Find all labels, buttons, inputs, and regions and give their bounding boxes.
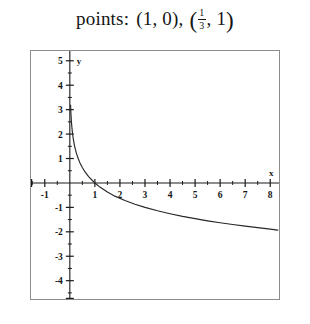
svg-text:1: 1 — [58, 154, 63, 164]
y-axis-label: y — [77, 56, 82, 66]
graph-canvas: -112345678 54321-1-2-3-4 x y — [31, 51, 279, 299]
page-title: points:(1, 0), (13, 1) — [0, 4, 310, 34]
title-label: points: — [76, 8, 129, 29]
svg-text:5: 5 — [193, 190, 198, 200]
plot-frame: -112345678 54321-1-2-3-4 x y — [30, 50, 280, 300]
svg-text:7: 7 — [243, 190, 248, 200]
svg-text:4: 4 — [168, 190, 173, 200]
point-one: (1, 0), — [136, 8, 183, 29]
x-axis-tick-labels: -112345678 — [41, 190, 273, 200]
svg-text:-4: -4 — [55, 276, 63, 286]
log-curve — [71, 105, 278, 230]
paren-open: ( — [189, 8, 197, 33]
svg-text:5: 5 — [58, 56, 63, 66]
svg-text:8: 8 — [268, 190, 273, 200]
fraction-denominator: 3 — [198, 21, 205, 31]
svg-text:3: 3 — [143, 190, 148, 200]
svg-text:-1: -1 — [41, 190, 49, 200]
svg-text:6: 6 — [218, 190, 223, 200]
svg-text:3: 3 — [58, 105, 63, 115]
x-axis-label: x — [269, 168, 274, 178]
svg-text:-1: -1 — [55, 203, 63, 213]
svg-text:-3: -3 — [55, 252, 63, 262]
y-axis-tick-labels: 54321-1-2-3-4 — [55, 56, 63, 286]
fraction-numerator: 1 — [198, 8, 205, 18]
paren-close: ) — [226, 8, 234, 33]
fraction-one-third: 13 — [198, 8, 205, 30]
svg-text:-2: -2 — [55, 227, 63, 237]
svg-text:2: 2 — [58, 130, 63, 140]
svg-text:1: 1 — [93, 190, 98, 200]
svg-text:4: 4 — [58, 81, 63, 91]
point-two-rest: , 1 — [207, 8, 227, 29]
point-two: (13, 1) — [189, 8, 234, 29]
